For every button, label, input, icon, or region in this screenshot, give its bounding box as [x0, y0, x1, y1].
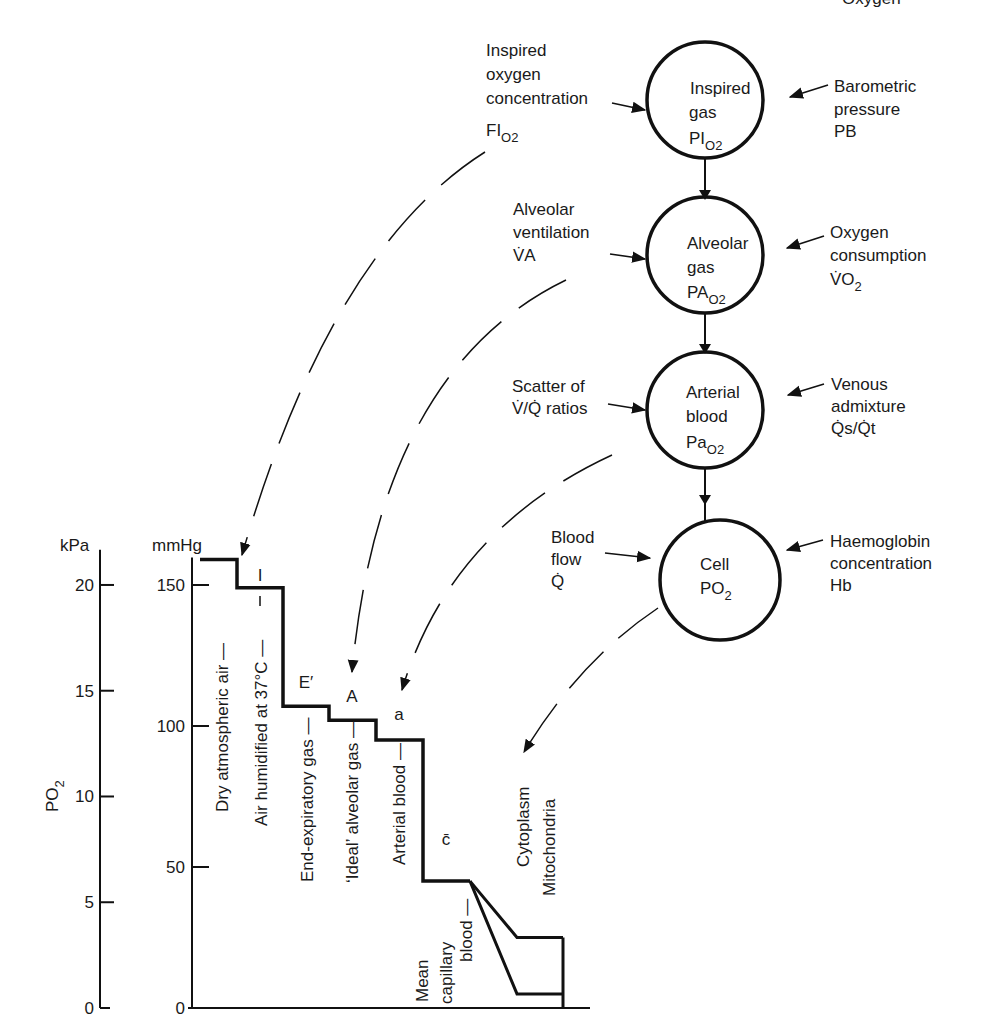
stage-label-mean-capillary: capillary [437, 941, 456, 1004]
stage-label-mean-capillary: blood — [457, 899, 476, 962]
arrow-icon [788, 384, 824, 395]
circle-alveolar-gas: Alveolar gas PAO2 [647, 197, 763, 313]
circle-alveolar-line1: Alveolar [687, 234, 749, 253]
arrow-icon [787, 236, 824, 248]
factor-symbol: FIO2 [486, 121, 518, 145]
circle-arterial-line2: blood [686, 407, 728, 426]
kpa-unit-label: kPa [60, 536, 90, 555]
arrow-icon [610, 254, 645, 259]
circle-cell: Cell PO2 [660, 520, 780, 640]
mmhg-unit-label: mmHg [152, 536, 202, 555]
arrow-icon [608, 404, 645, 410]
factor-text: concentration [830, 554, 932, 573]
oxygen-cascade-figure: Oxygen Inspired gas PIO2 Alveolar gas PA… [0, 0, 986, 1023]
factor-text: Inspired [486, 41, 546, 60]
factor-text: Scatter of [512, 377, 585, 396]
factor-oxygen-consumption: Oxygen consumption V̇O2 [787, 223, 926, 294]
kpa-tick-label: 15 [75, 682, 94, 701]
stage-label: Arterial blood — [390, 743, 409, 865]
factor-text: Haemoglobin [830, 532, 930, 551]
dashed-arrow-arterial [402, 455, 612, 690]
circle-inspired-gas: Inspired gas PIO2 [647, 42, 763, 158]
factor-venous-admixture: Venous admixture Q̇s/Q̇t [788, 375, 906, 438]
arrow-icon [605, 553, 650, 558]
factor-text: Barometric [834, 77, 917, 96]
factor-symbol: PB [834, 122, 857, 141]
y-axis-label: PO2 [43, 780, 67, 812]
cascade: IE′Aac̄Dry atmospheric air —Air humidifi… [200, 560, 563, 1008]
circle-inspired-line1: Inspired [690, 79, 750, 98]
factor-symbol: Hb [830, 576, 852, 595]
stage-label-mean-capillary: Mean [413, 959, 432, 1002]
factor-text: oxygen [486, 65, 541, 84]
circle-alveolar-line2: gas [687, 258, 714, 277]
stage-marker: A [346, 687, 358, 706]
factor-text: Oxygen [830, 223, 889, 242]
factor-blood-flow: Blood flow Q̇ [551, 528, 650, 591]
factor-text: ventilation [513, 223, 590, 242]
stage-marker: c̄ [442, 830, 451, 849]
stage-label: End-expiratory gas — [298, 718, 317, 882]
factor-text: admixture [831, 397, 906, 416]
factor-symbol: Q̇ [551, 572, 564, 591]
arrow-icon [787, 540, 823, 550]
factor-symbol: V̇A [513, 246, 536, 265]
kpa-tick-label: 10 [75, 787, 94, 806]
stage-label: ‘Ideal’ alveolar gas — [343, 721, 362, 883]
factor-text: Alveolar [513, 200, 575, 219]
circle-alveolar-symbol: PAO2 [687, 283, 726, 307]
factor-barometric-pressure: Barometric pressure PB [790, 77, 917, 141]
mmhg-tick-label: 100 [157, 717, 185, 736]
factor-inspired-oxygen-concentration: Inspired oxygen concentration FIO2 [486, 41, 645, 145]
factor-text: Blood [551, 528, 594, 547]
dashed-arrow-cell [524, 608, 658, 752]
factor-text: pressure [834, 100, 900, 119]
factor-text: concentration [486, 89, 588, 108]
circle-inspired-symbol: PIO2 [689, 129, 722, 153]
factor-text: consumption [830, 246, 926, 265]
factor-text: V̇/Q̇ ratios [512, 399, 588, 418]
factor-symbol: Q̇s/Q̇t [831, 419, 876, 438]
branch-label: Mitochondria [540, 798, 559, 896]
arrow-icon [612, 103, 645, 110]
cascade-step-line [200, 560, 470, 881]
factor-scatter-vq-ratios: Scatter of V̇/Q̇ ratios [512, 377, 645, 418]
stage-label: Air humidified at 37°C — [252, 640, 271, 826]
mmhg-tick-label: 150 [157, 576, 185, 595]
mmhg-tick-label: 0 [176, 999, 185, 1018]
dashed-arrow-fio2-to-inspired [242, 152, 485, 555]
stage-marker: I [258, 566, 263, 585]
stage-marker: a [394, 705, 404, 724]
kpa-tick-label: 20 [75, 576, 94, 595]
factor-text: Venous [831, 375, 888, 394]
circle-arterial-blood: Arterial blood PaO2 [647, 352, 763, 468]
circle-cell-symbol: PO2 [700, 579, 732, 603]
dashed-arrow-alveolar [352, 280, 566, 672]
circle-arterial-line1: Arterial [686, 383, 740, 402]
circle-cell-line1: Cell [700, 555, 729, 574]
circle-inspired-line2: gas [689, 103, 716, 122]
branch-label: Cytoplasm [514, 787, 533, 867]
mmhg-tick-label: 50 [166, 858, 185, 877]
arrow-icon [790, 85, 828, 97]
factor-haemoglobin-concentration: Haemoglobin concentration Hb [787, 532, 932, 595]
circle-arterial-symbol: PaO2 [686, 433, 724, 457]
stage-label: Dry atmospheric air — [213, 643, 232, 812]
factor-symbol: V̇O2 [830, 270, 862, 294]
kpa-tick-label: 0 [85, 999, 94, 1018]
factor-text: flow [551, 550, 582, 569]
stage-marker: E′ [299, 673, 314, 692]
page-header-partial: Oxygen [842, 0, 901, 8]
kpa-tick-label: 5 [85, 893, 94, 912]
factor-alveolar-ventilation: Alveolar ventilation V̇A [513, 200, 645, 265]
triangle-icon [699, 495, 711, 505]
